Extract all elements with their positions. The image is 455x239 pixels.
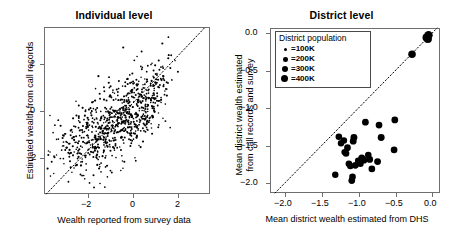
xtick-label-ind-2: 2 (175, 199, 180, 209)
ytick-mark-ind-0 (40, 64, 44, 65)
ytick-mark-ind-2 (40, 158, 44, 159)
ytick-mark-dis-1 (266, 71, 270, 72)
panel-district-level: District level 0.0 −0.5 −1.0 −1.5 −2.0 −… (228, 0, 455, 239)
ytick-mark-ind-1 (40, 111, 44, 112)
xtick-label-dis-2: −1.0 (348, 198, 366, 208)
xtick-mark-dis-4 (432, 193, 433, 197)
legend-dot-100k (284, 48, 287, 51)
legend-label-100k: =100K (291, 44, 315, 53)
yaxis-title-district-line2: from call records and survey (245, 58, 255, 171)
xtick-mark-ind-1 (133, 194, 134, 198)
legend-label-400k: =400K (291, 74, 315, 83)
legend-label-300k: =300K (291, 64, 315, 73)
ytick-mark-dis-4 (266, 183, 270, 184)
figure-two-panel-scatter: Individual level 2 0 −2 −2 0 2 Wealth re… (0, 0, 455, 239)
yaxis-title-individual: Estimated wealth from call records (25, 16, 36, 206)
xtick-label-ind-1: 0 (130, 199, 135, 209)
ytick-mark-dis-3 (266, 146, 270, 147)
xtick-mark-dis-2 (359, 193, 360, 197)
ytick-mark-dis-0 (266, 33, 270, 34)
legend-label-200k: =200K (291, 54, 315, 63)
xtick-label-dis-1: −1.5 (311, 198, 329, 208)
legend-dot-200k (283, 57, 288, 62)
xtick-mark-dis-3 (396, 193, 397, 197)
xtick-label-ind-0: −2 (81, 199, 91, 209)
legend-dot-300k (282, 66, 288, 72)
ytick-mark-dis-2 (266, 108, 270, 109)
yaxis-title-district-line1: Mean district wealth estimated (234, 54, 244, 175)
xtick-mark-ind-2 (178, 194, 179, 198)
xtick-mark-dis-0 (285, 193, 286, 197)
xaxis-title-individual: Wealth reported from survey data (24, 215, 224, 226)
xtick-mark-dis-1 (322, 193, 323, 197)
yaxis-title-district: Mean district wealth estimated from call… (234, 25, 256, 205)
xtick-label-dis-3: −0.5 (385, 198, 403, 208)
xtick-label-dis-4: 0.0 (424, 198, 437, 208)
xtick-mark-ind-0 (88, 194, 89, 198)
panel-individual-level: Individual level 2 0 −2 −2 0 2 Wealth re… (0, 0, 228, 239)
xtick-label-dis-0: −2.0 (274, 198, 292, 208)
xaxis-title-district: Mean district wealth estimated from DHS (242, 214, 452, 225)
legend-title: District population (279, 33, 347, 43)
